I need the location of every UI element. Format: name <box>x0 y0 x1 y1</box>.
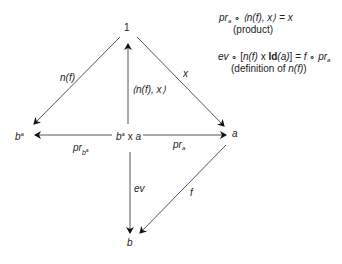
arrow-x <box>137 37 224 126</box>
node-a: a <box>232 128 238 140</box>
label-pairing: ⟨n(f), x⟩ <box>132 84 166 96</box>
label-pr-a: pra <box>173 139 185 154</box>
arrow-n-f <box>34 37 120 124</box>
node-b: b <box>127 237 133 249</box>
node-product-op: x <box>125 131 136 142</box>
node-product: ba x a <box>116 128 141 143</box>
diagram-arrows <box>0 0 342 264</box>
label-f: f <box>190 187 193 199</box>
label-ev: ev <box>134 183 145 195</box>
arrow-f <box>140 145 226 233</box>
label-x: x <box>183 68 188 80</box>
node-exponential: ba <box>15 128 24 143</box>
label-n-f: n(f) <box>60 72 75 84</box>
equation-definition-caption: (definition of n(f)) <box>231 63 307 75</box>
node-terminal: 1 <box>124 22 130 34</box>
equation-product-caption: (product) <box>233 24 273 36</box>
label-pr-a-sub: a <box>182 145 185 151</box>
label-pr-a-main: pr <box>173 139 182 150</box>
label-pr-b-a-sub: ba <box>82 149 89 156</box>
label-pr-b-a: prba <box>73 142 89 159</box>
node-exponential-sup: a <box>21 131 24 137</box>
label-pr-b-a-main: pr <box>73 142 82 153</box>
node-product-right: a <box>135 131 141 142</box>
